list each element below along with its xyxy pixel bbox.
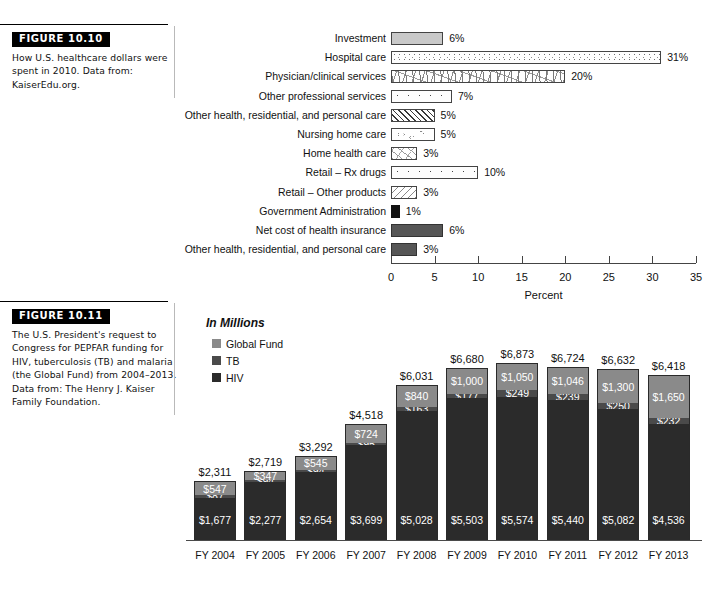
x-axis-tick [435,256,436,263]
bar-segment [391,70,565,83]
bar-row: Retail – Other products3% [180,184,705,201]
stacked-column: $840$163$5,028 [396,385,438,541]
x-axis-tick [478,256,479,263]
bar-category-label: Physician/clinical services [265,68,386,85]
stacked-segment: $5,082 [597,409,639,541]
column-total-label: $4,518 [336,409,396,421]
stacked-segment: $5,440 [547,400,589,541]
bar-category-label: Net cost of health insurance [256,222,386,239]
column-total-label: $6,031 [387,370,447,382]
bar-category-label: Government Administration [259,203,386,220]
figure-2-tag-wrap: FIGURE 10.11 [12,305,180,324]
figure-1-caption-text: How U.S. healthcare dollars were spent i… [12,51,180,91]
stacked-column: $547$87$1,677 [194,481,236,541]
segment-value-label: $5,574 [497,514,537,526]
stacked-column: $347$94$2,277 [244,471,286,541]
x-axis-tick [609,256,610,263]
x-axis-tick-label: 15 [516,271,528,283]
figure-1-top-rule [0,24,168,25]
bar-value-label: 5% [441,107,456,124]
stacked-segment: $5,028 [396,411,438,541]
figure-2-tag: FIGURE 10.11 [12,309,110,324]
bar-category-label: Retail – Other products [278,184,386,201]
stacked-segment: $2,277 [244,482,286,541]
bar-row: Physician/clinical services20% [180,68,705,85]
segment-value-label: $840 [397,390,437,402]
figure-1-tag: FIGURE 10.10 [12,32,110,47]
bar-category-label: Nursing home care [297,126,386,143]
segment-value-label: $5,082 [598,514,638,526]
x-axis-tick [522,256,523,263]
figure-2-divider [174,303,175,415]
segment-value-label: $3,699 [346,514,386,526]
bar-row: Nursing home care5% [180,126,705,143]
figure-1-tag-wrap: FIGURE 10.10 [12,28,180,47]
stacked-segment: $545 [295,456,337,470]
column-total-label: $2,311 [185,466,245,478]
bar-category-label: Other health, residential, and personal … [185,241,386,258]
bar-row: Hospital care31% [180,49,705,66]
stacked-column: $1,650$232$4,536 [648,375,690,541]
segment-value-label: $2,654 [296,514,336,526]
x-axis-line [391,263,696,264]
stacked-segment: $5,574 [496,397,538,541]
bar-segment [391,109,435,122]
segment-value-label: $545 [296,457,336,469]
bar-value-label: 10% [484,164,505,181]
bar-category-label: Home health care [303,145,386,162]
stacked-segment: $1,000 [446,368,488,394]
segment-value-label: $5,028 [397,514,437,526]
bar-category-label: Hospital care [325,49,386,66]
x-axis-tick [391,256,392,263]
bar-segment [391,166,478,179]
bar-row: Retail – Rx drugs10% [180,164,705,181]
stacked-column: $1,046$239$5,440 [547,367,589,541]
segment-value-label: $4,536 [649,514,689,526]
figure-2-caption-block: FIGURE 10.11 The U.S. President's reques… [12,305,180,408]
x-axis-tick-label: 35 [690,271,702,283]
segment-value-label: $1,650 [649,391,689,403]
stacked-segment: $5,503 [446,398,488,541]
column-total-label: $3,292 [286,441,346,453]
bar-value-label: 3% [423,145,438,162]
bar-value-label: 31% [667,49,688,66]
x-axis-tick-label: 5 [432,271,438,283]
stacked-segment: $724 [345,424,387,443]
chart-2-x-axis-line [186,540,702,541]
segment-value-label: $724 [346,428,386,440]
stacked-column: $1,300$250$5,082 [597,369,639,541]
segment-value-label: $5,440 [548,514,588,526]
segment-value-label: $1,000 [447,375,487,387]
bar-row: Home health care3% [180,145,705,162]
bar-row: Other health, residential, and personal … [180,107,705,124]
chart-2-plot-area: $547$87$1,677$2,311FY 2004$347$94$2,277$… [180,300,708,585]
bar-segment [391,90,452,103]
bar-value-label: 6% [449,222,464,239]
figure-2-top-rule [0,301,168,302]
segment-value-label: $5,503 [447,514,487,526]
segment-value-label: $1,300 [598,381,638,393]
bar-category-label: Retail – Rx drugs [305,164,386,181]
bar-value-label: 7% [458,88,473,105]
column-total-label: $6,418 [639,360,699,372]
segment-value-label: $2,277 [245,514,285,526]
bar-row: Net cost of health insurance6% [180,222,705,239]
bar-segment [391,224,443,237]
pepfar-funding-stacked-bar-chart: In Millions Global FundTBHIV $547$87$1,6… [180,300,708,585]
figure-1-divider [174,26,175,98]
stacked-column: $724$95$3,699 [345,424,387,541]
stacked-column: $1,050$249$5,574 [496,363,538,541]
bar-row: Government Administration1% [180,203,705,220]
stacked-column: $1,000$177$5,503 [446,368,488,541]
stacked-segment: $547 [194,481,236,495]
segment-value-label: $1,677 [195,514,235,526]
bar-category-label: Other professional services [259,88,386,105]
bar-segment [391,147,417,160]
column-total-label: $2,719 [235,456,295,468]
stacked-segment: $3,699 [345,445,387,541]
stacked-segment: $1,046 [547,367,589,394]
bar-category-label: Other health, residential, and personal … [185,107,386,124]
x-axis-tick [652,256,653,263]
x-axis-tick-label: 20 [559,271,571,283]
stacked-segment: $840 [396,385,438,407]
